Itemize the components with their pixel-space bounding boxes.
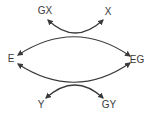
node-label-e: E xyxy=(8,54,15,64)
node-label-gx: GX xyxy=(38,6,52,16)
arc-e-eg-top xyxy=(18,37,130,56)
arc-y-gy xyxy=(46,85,103,98)
arc-gx-x xyxy=(48,20,103,33)
node-label-x: X xyxy=(105,7,112,17)
node-label-y: Y xyxy=(38,100,45,110)
node-label-gy: GY xyxy=(102,100,116,110)
arc-e-eg-bottom xyxy=(18,63,130,82)
node-label-eg: EG xyxy=(130,55,144,65)
coupled-reaction-diagram xyxy=(0,0,151,118)
